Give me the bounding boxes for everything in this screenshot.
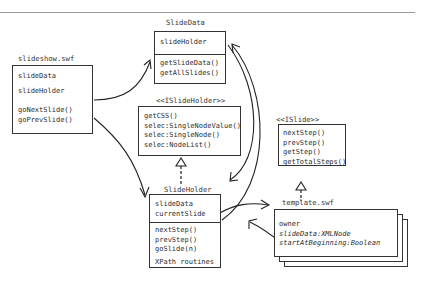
arrowhead-slideshow-to-slideholder	[140, 187, 149, 197]
method-gonextslide: goNextSlide()	[18, 106, 87, 116]
attr-slideholder: slideHolder	[160, 38, 220, 48]
interface-islideholder[interactable]: getCSS() selec:SingleNodeValue() selec:S…	[138, 106, 241, 156]
method-goslide: goSlide(n)	[155, 245, 215, 255]
islideholder-title: <<ISlideHolder>>	[156, 97, 225, 104]
arrow-slideshow-to-slidedata	[94, 62, 150, 100]
method-goprevslide: goPrevSlide()	[18, 116, 87, 126]
slideholder-title: SlideHolder	[164, 186, 212, 193]
interface-islide[interactable]: nextStep() prevStep() getStep() getTotal…	[278, 124, 346, 166]
method-selectsinglenode: selec:SingleNode()	[144, 131, 235, 141]
realization-triangle-islide	[296, 182, 306, 190]
attr-owner: owner	[279, 220, 392, 230]
method-prevstep: prevStep()	[283, 139, 340, 149]
realization-triangle-islideholder	[176, 158, 186, 166]
class-slideshow[interactable]: slideData slideHolder goNextSlide() goPr…	[12, 65, 93, 134]
attr-slidedata-xmlnode: slideData:XMLNode	[279, 230, 392, 240]
method-getallslides: getAllSlides()	[160, 69, 220, 79]
slidedata-title: SlideData	[166, 19, 205, 26]
method-gettotalsteps: getTotalSteps()	[283, 158, 340, 168]
class-template[interactable]: owner slideData:XMLNode startAtBeginning…	[274, 209, 398, 257]
arrowhead-slideholder-to-slidedata	[232, 44, 240, 53]
slideshow-title: slideshow.swf	[18, 55, 74, 62]
method-getslidedata: getSlideData()	[160, 59, 220, 69]
attr-startatbeginning: startAtBeginning:Boolean	[279, 239, 392, 249]
attr-slidedata: slideData	[155, 200, 215, 210]
method-nextstep: nextStep()	[283, 129, 340, 139]
top-divider	[0, 12, 415, 13]
attr-slidedata: slideData	[18, 72, 87, 82]
method-prevstep: prevStep()	[155, 236, 215, 246]
attr-currentslide: currentSlide	[155, 210, 215, 220]
arrowhead-slideholder-to-template	[261, 200, 269, 209]
arrowhead-slidedata-to-slideholder	[230, 172, 238, 181]
method-nextstep: nextStep()	[155, 226, 215, 236]
class-slidedata[interactable]: slideHolder getSlideData() getAllSlides(…	[154, 31, 226, 84]
arrow-slideholder-to-template	[218, 204, 268, 214]
method-selectnodelist: selec:NodeList()	[144, 141, 235, 151]
xpath-routines: XPath routines	[155, 258, 215, 268]
method-selectsinglenodevalue: selec:SingleNodeValue()	[144, 122, 235, 132]
attr-slideholder: slideHolder	[18, 87, 87, 97]
method-getcss: getCSS()	[144, 112, 235, 122]
arrowhead-template-to-slideholder	[249, 219, 257, 229]
method-getstep: getStep()	[283, 148, 340, 158]
arrowhead-slideshow-to-slidedata	[144, 60, 151, 69]
class-slideholder[interactable]: slideData currentSlide nextStep() prevSt…	[149, 194, 221, 268]
template-title: template.swf	[282, 199, 334, 206]
islide-title: <<ISlide>>	[276, 116, 319, 123]
